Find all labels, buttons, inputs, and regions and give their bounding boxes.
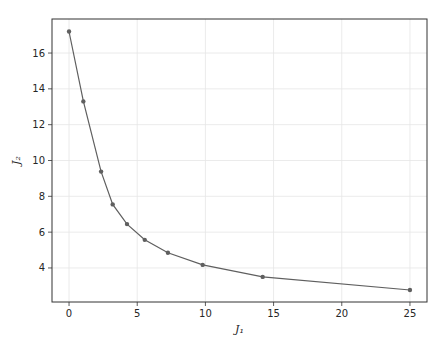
y-tick-label: 6 bbox=[39, 227, 45, 238]
x-tick-label: 0 bbox=[66, 308, 72, 319]
data-point-marker bbox=[125, 222, 129, 226]
y-tick-label: 4 bbox=[39, 262, 45, 273]
x-tick-label: 10 bbox=[199, 308, 212, 319]
y-tick-label: 16 bbox=[32, 48, 45, 59]
y-tick-label: 8 bbox=[39, 191, 45, 202]
y-axis-label: J₂ bbox=[10, 156, 23, 167]
data-point-marker bbox=[260, 275, 264, 279]
data-point-marker bbox=[408, 288, 412, 292]
data-point-marker bbox=[143, 238, 147, 242]
x-axis-ticks: 0510152025 bbox=[66, 302, 416, 319]
x-tick-label: 20 bbox=[335, 308, 348, 319]
x-tick-label: 25 bbox=[404, 308, 417, 319]
y-tick-label: 12 bbox=[32, 119, 45, 130]
data-point-marker bbox=[110, 202, 114, 206]
data-point-marker bbox=[81, 99, 85, 103]
y-tick-label: 10 bbox=[32, 155, 45, 166]
x-tick-label: 5 bbox=[134, 308, 140, 319]
data-point-marker bbox=[166, 251, 170, 255]
grid-lines bbox=[52, 19, 427, 302]
data-point-marker bbox=[200, 263, 204, 267]
x-tick-label: 15 bbox=[267, 308, 280, 319]
chart: 0510152025 46810121416 J₁ J₂ bbox=[0, 0, 445, 350]
x-axis-label: J₁ bbox=[233, 323, 244, 336]
data-point-marker bbox=[99, 169, 103, 173]
y-tick-label: 14 bbox=[32, 83, 45, 94]
y-axis-ticks: 46810121416 bbox=[32, 48, 52, 274]
data-point-marker bbox=[67, 29, 71, 33]
